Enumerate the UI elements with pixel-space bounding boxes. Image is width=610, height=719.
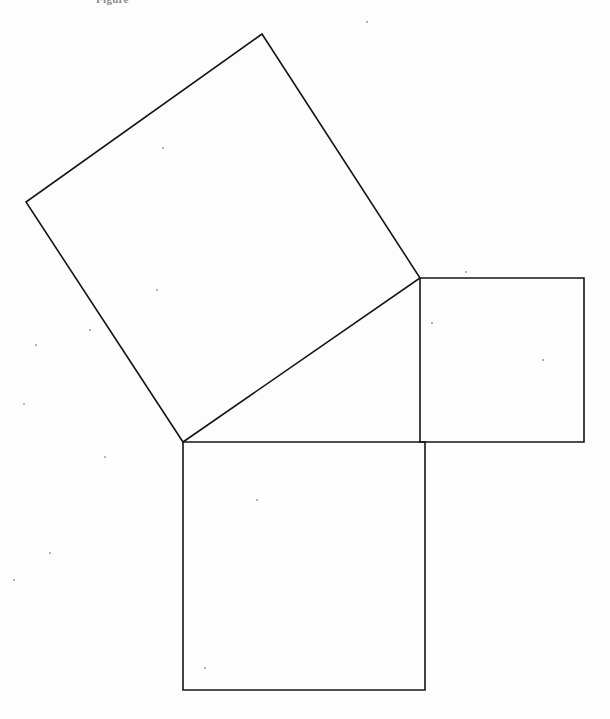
hypotenuse-square [26,34,420,442]
horizontal-leg-square [183,442,425,690]
scanned-page: Figure [0,0,610,719]
pythagoras-figure [0,0,610,719]
vertical-leg-square [420,278,584,442]
